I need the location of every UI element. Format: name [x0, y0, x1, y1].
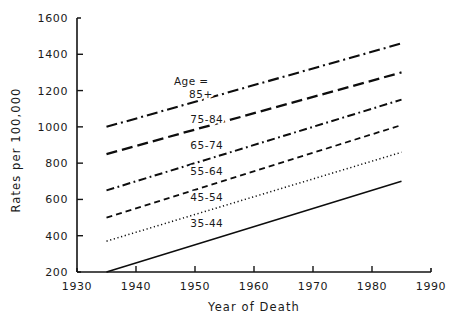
legend-header: Age = [174, 75, 208, 87]
y-tick-label-600: 600 [45, 193, 68, 206]
series-label-85-: 85+ [189, 88, 213, 100]
y-tick-label-400: 400 [45, 230, 68, 243]
x-tick-label-1940: 1940 [121, 280, 151, 293]
series-label-65-74: 65-74 [190, 139, 223, 151]
series-line-45-54 [107, 152, 402, 241]
x-tick-marks [136, 266, 372, 272]
y-tick-labels: 2004006008001000120014001600 [38, 12, 68, 279]
y-tick-label-1200: 1200 [38, 85, 68, 98]
x-tick-label-1990: 1990 [416, 280, 446, 293]
chart-svg: 2004006008001000120014001600 19301940195… [0, 0, 459, 327]
series-labels: 85+85+75-8475-8465-7465-7455-6455-6445-5… [189, 88, 223, 229]
y-tick-label-1000: 1000 [38, 121, 68, 134]
x-tick-label-1970: 1970 [298, 280, 328, 293]
x-tick-label-1980: 1980 [357, 280, 387, 293]
x-tick-label-1950: 1950 [180, 280, 210, 293]
series-label-45-54: 45-54 [190, 191, 223, 203]
series-line-55-64 [107, 125, 402, 218]
y-tick-label-1600: 1600 [38, 12, 68, 25]
line-chart: 2004006008001000120014001600 19301940195… [0, 0, 459, 327]
y-tick-label-800: 800 [45, 157, 68, 170]
series-line-35-44 [107, 181, 402, 272]
y-tick-marks [77, 54, 83, 235]
series-label-35-44: 35-44 [190, 217, 223, 229]
x-axis-title: Year of Death [207, 300, 300, 314]
y-axis-line [77, 18, 81, 272]
x-tick-label-1960: 1960 [239, 280, 269, 293]
x-tick-labels: 1930194019501960197019801990 [62, 280, 446, 293]
series-label-75-84: 75-84 [190, 113, 223, 125]
series-lines [107, 43, 402, 272]
y-tick-label-200: 200 [45, 266, 68, 279]
y-tick-label-1400: 1400 [38, 48, 68, 61]
y-axis-title: Rates per 100,000 [9, 87, 23, 212]
series-label-55-64: 55-64 [190, 165, 223, 177]
x-tick-label-1930: 1930 [62, 280, 92, 293]
